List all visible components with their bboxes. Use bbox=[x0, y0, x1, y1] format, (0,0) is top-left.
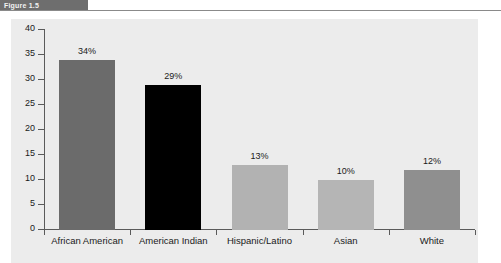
y-axis-tick-label: 25 bbox=[25, 98, 35, 109]
y-axis-tick: 30 bbox=[38, 79, 44, 80]
x-axis-category-label: Hispanic/Latino bbox=[216, 235, 302, 247]
y-axis-tick-label: 20 bbox=[25, 123, 35, 134]
figure-caption-strip: Figure 1.5 bbox=[0, 0, 501, 11]
bar-value-label: 10% bbox=[337, 166, 355, 177]
y-axis-line bbox=[44, 29, 45, 230]
x-axis-tick bbox=[475, 230, 476, 235]
y-axis-tick: 10 bbox=[38, 179, 44, 180]
y-axis-tick-label: 10 bbox=[25, 173, 35, 184]
bar: 12% bbox=[404, 170, 460, 230]
bar-value-label: 34% bbox=[78, 46, 96, 57]
y-axis-tick-label: 15 bbox=[25, 148, 35, 159]
bar: 10% bbox=[318, 180, 374, 230]
y-axis-tick: 40 bbox=[38, 29, 44, 30]
bar-chart: 0510152025303540 34%29%13%10%12% African… bbox=[11, 19, 478, 263]
y-axis-tick: 15 bbox=[38, 154, 44, 155]
bar-value-label: 12% bbox=[423, 156, 441, 167]
y-axis-tick-label: 0 bbox=[30, 223, 35, 234]
bar-value-label: 29% bbox=[164, 71, 182, 82]
y-axis-tick-label: 35 bbox=[25, 48, 35, 59]
x-axis-category-label: American Indian bbox=[130, 235, 216, 247]
x-axis-category-label: White bbox=[389, 235, 475, 247]
x-axis-category-label: Asian bbox=[303, 235, 389, 247]
y-axis-tick-label: 5 bbox=[30, 198, 35, 209]
y-axis-tick: 5 bbox=[38, 204, 44, 205]
bar: 13% bbox=[232, 165, 288, 230]
caption-divider bbox=[0, 10, 501, 11]
y-axis-tick: 35 bbox=[38, 54, 44, 55]
bar-value-label: 13% bbox=[250, 151, 268, 162]
chart-panel: 0510152025303540 34%29%13%10%12% African… bbox=[11, 19, 478, 263]
bar: 34% bbox=[59, 60, 115, 230]
y-axis-tick: 20 bbox=[38, 129, 44, 130]
y-axis-tick-label: 40 bbox=[25, 23, 35, 34]
bar: 29% bbox=[145, 85, 201, 230]
y-axis-tick: 25 bbox=[38, 104, 44, 105]
x-axis-category-label: African American bbox=[44, 235, 130, 247]
y-axis-tick-label: 30 bbox=[25, 73, 35, 84]
